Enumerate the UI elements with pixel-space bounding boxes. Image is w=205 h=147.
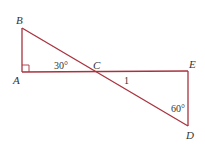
segment-ae [22,71,188,72]
label-e: E [188,58,196,70]
angle-cde-label: 60° [171,103,185,114]
angle-acb-label: 30° [54,60,68,71]
label-d: D [185,129,194,141]
geometry-diagram: B A C E D 30° 1 60° [0,0,205,147]
label-a: A [12,74,20,86]
length-cd-label: 1 [124,75,129,86]
label-b: B [16,14,23,26]
right-angle-marker [22,65,29,72]
segment-bd [22,28,188,126]
label-c: C [93,59,101,71]
